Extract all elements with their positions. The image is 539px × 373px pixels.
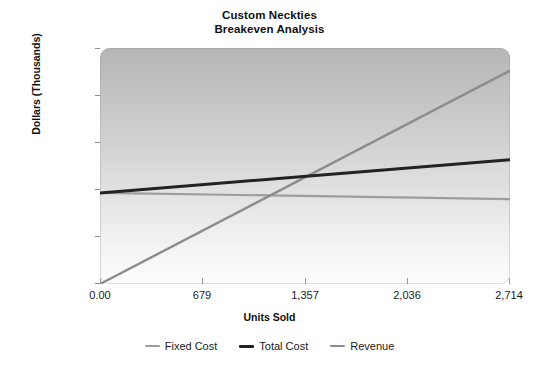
legend-label-fixed-cost: Fixed Cost bbox=[165, 340, 218, 352]
legend-item-total-cost[interactable]: Total Cost bbox=[239, 340, 308, 352]
x-tick-mark-679 bbox=[202, 278, 203, 284]
legend-label-total-cost: Total Cost bbox=[259, 340, 308, 352]
x-tick-label-1357: 1,357 bbox=[265, 289, 345, 301]
y-axis-label: Dollars (Thousands) bbox=[30, 4, 42, 164]
x-tick-label-0: 0.00 bbox=[60, 289, 140, 301]
series-line-total-cost bbox=[100, 160, 510, 193]
chart-legend: Fixed Cost Total Cost Revenue bbox=[0, 340, 539, 352]
x-axis-label: Units Sold bbox=[0, 311, 539, 323]
legend-item-revenue[interactable]: Revenue bbox=[330, 340, 394, 352]
legend-swatch-icon-total-cost bbox=[239, 345, 254, 348]
plot-area bbox=[100, 48, 510, 284]
chart-title-line-1: Custom Neckties bbox=[0, 8, 539, 22]
series-line-fixed-cost bbox=[100, 193, 510, 199]
chart-title-line-2: Breakeven Analysis bbox=[0, 22, 539, 36]
x-tick-mark-1357 bbox=[305, 278, 306, 284]
x-tick-label-679: 679 bbox=[162, 289, 242, 301]
x-tick-mark-0 bbox=[100, 278, 101, 284]
legend-swatch-icon-fixed-cost bbox=[145, 345, 160, 347]
x-tick-label-2036: 2,036 bbox=[367, 289, 447, 301]
legend-swatch-icon-revenue bbox=[330, 345, 345, 347]
breakeven-chart-figure: Custom Neckties Breakeven Analysis Dolla… bbox=[0, 0, 539, 373]
plot-series-canvas bbox=[100, 48, 510, 284]
x-tick-mark-2714 bbox=[509, 278, 510, 284]
legend-label-revenue: Revenue bbox=[350, 340, 394, 352]
chart-title: Custom Neckties Breakeven Analysis bbox=[0, 8, 539, 36]
legend-item-fixed-cost[interactable]: Fixed Cost bbox=[145, 340, 218, 352]
x-tick-mark-2036 bbox=[407, 278, 408, 284]
x-tick-label-2714: 2,714 bbox=[469, 289, 539, 301]
